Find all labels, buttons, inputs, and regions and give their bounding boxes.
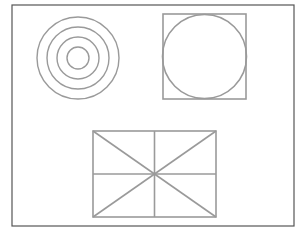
concentric-circles [37,17,119,99]
ring-4 [67,47,89,69]
geometric-diagram [0,0,303,235]
divided-rectangle [93,131,216,217]
ring-1 [37,17,119,99]
inscribed-circle [163,15,247,99]
ring-3 [57,37,99,79]
square-with-inscribed-circle [163,14,247,99]
